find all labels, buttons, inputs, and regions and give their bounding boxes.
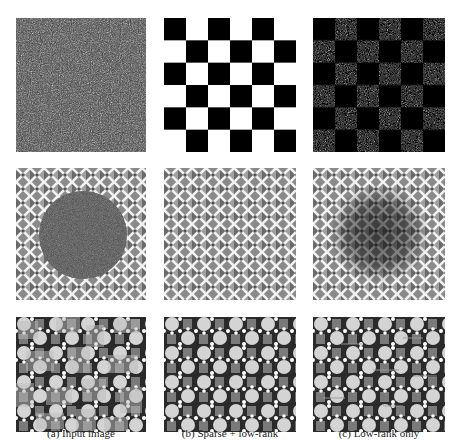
occluded-lattice-image [16, 168, 146, 300]
caption-sparse-lowrank: (b) Sparse + low-rank [155, 427, 305, 439]
panel-lowrank-only-lattice [313, 168, 445, 300]
clean-checkerboard-image [164, 18, 296, 152]
caption-lowrank-only: (c) Low-rank only [304, 427, 454, 439]
corrupted-tiles-image [16, 317, 146, 432]
noisy-residual-checkerboard-image [313, 18, 445, 152]
streaked-tiles-image [313, 317, 445, 432]
recovered-lattice-image [164, 168, 296, 300]
panel-sparse-lowrank-lattice [164, 168, 296, 300]
panel-sparse-lowrank-tiles [164, 317, 296, 432]
panel-lowrank-only-tiles [313, 317, 445, 432]
panel-input-checkerboard [16, 18, 146, 152]
panel-input-tiles [16, 317, 146, 432]
caption-input-image: (a) Input image [6, 427, 156, 439]
noisy-checkerboard-image [16, 18, 146, 152]
panel-sparse-lowrank-checkerboard [164, 18, 296, 152]
panel-lowrank-only-checkerboard [313, 18, 445, 152]
blurred-lattice-image [313, 168, 445, 300]
recovered-tiles-image [164, 317, 296, 432]
panel-input-lattice [16, 168, 146, 300]
